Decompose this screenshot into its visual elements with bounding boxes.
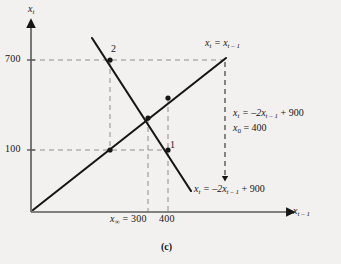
x-tick-label-fixed-point: x∞ = 300 [110,214,147,226]
x-tick-label-400: 400 [159,214,175,225]
point-label-1: 1 [170,140,175,151]
point-2-dot [107,57,112,62]
y-axis-label: xt [28,4,34,16]
y-tick-label-700: 700 [5,54,21,65]
point-fixed-dot [145,115,150,120]
equation-annotation: xt = –2xt – 1 + 900 x0 = 400 [233,106,304,136]
figure-caption: (c) [161,242,172,253]
identity-line-label: xt = xt – 1 [205,38,240,50]
map-line-label: xt = –2xt – 1 + 900 [194,184,265,196]
marked-points [107,57,170,152]
map-line [92,38,191,191]
equation-initial-value: x0 = 400 [233,121,304,136]
equation-recurrence: xt = –2xt – 1 + 900 [233,106,304,121]
y-tick-label-100: 100 [5,144,21,155]
x-axis-label: xt – 1 [293,206,310,218]
figure-container: xt xt – 1 700 100 x∞ = 300 400 xt = xt –… [0,0,341,264]
point-400-400-dot [165,95,170,100]
point-label-2: 2 [111,44,116,55]
point-100-100-dot [107,147,112,152]
